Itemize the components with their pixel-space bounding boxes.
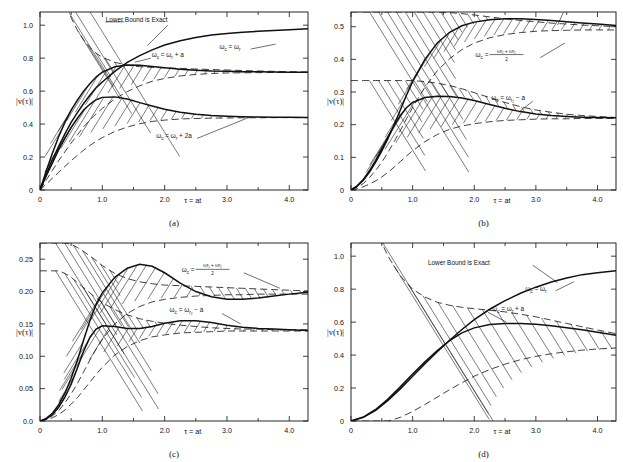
x-tick-label: 1.0 (408, 426, 418, 435)
x-tick-label: 0 (38, 426, 42, 435)
panel-letter: (a) (169, 218, 179, 228)
y-tick-label: 0.4 (23, 120, 33, 129)
annotation-leader (533, 265, 558, 282)
y-tick-label: 0.5 (334, 22, 344, 31)
x-tick-label: 4.0 (284, 195, 294, 204)
x-tick-label: 2.0 (160, 426, 170, 435)
y-tick-label: 1.0 (23, 21, 33, 30)
y-tick-label: 0 (340, 417, 344, 426)
x-axis-label: τ = at (184, 427, 201, 436)
y-axis-label: |v(τ)| (16, 96, 33, 106)
data-curve (40, 97, 308, 190)
panel-c: 01.02.03.04.00.00.050.100.150.200.25|v(τ… (0, 231, 322, 462)
y-axis-label: |v(τ)| (327, 327, 344, 337)
hatch-band (56, 243, 302, 409)
annotation-omega-c-omega-r: ωc = ωr (525, 285, 547, 294)
y-tick-label: 0.2 (334, 120, 344, 129)
y-tick-label: 0 (29, 186, 33, 195)
annotation-omega-c-omega-r-plus-a: ωc = ωr + a (492, 305, 524, 314)
panel-letter: (c) (169, 449, 179, 459)
data-curve (351, 96, 616, 190)
y-tick-label: 0.4 (334, 55, 344, 64)
curves-group (40, 0, 308, 190)
panel-letter: (b) (478, 218, 489, 228)
x-axis-label: τ = at (493, 427, 510, 436)
panel-letter: (d) (478, 449, 489, 459)
annotation-omega-c-omega-r: ωc = ωr (220, 43, 242, 52)
bound-curve (40, 0, 308, 72)
plot-frame (40, 12, 308, 190)
annotation-lower-bound-exact: Lower Bound is Exact (428, 259, 490, 266)
fraction-denominator: 2 (211, 271, 214, 276)
bound-curve (40, 243, 308, 291)
y-axis-label: |v(τ)| (16, 327, 33, 337)
annotation-leader (147, 25, 168, 46)
data-curve (40, 321, 308, 421)
panel-a: 01.02.03.04.000.20.40.60.81.0|v(τ)|τ = a… (0, 0, 322, 232)
y-tick-label: 0.0 (23, 417, 33, 426)
data-curve (40, 65, 308, 190)
x-tick-label: 0 (349, 426, 353, 435)
x-tick-label: 4.0 (284, 426, 294, 435)
hatch-band (369, 12, 503, 172)
bound-curve (351, 118, 616, 190)
panel-b: 01.02.03.04.000.10.20.30.40.5|v(τ)|τ = a… (311, 0, 623, 232)
annotation-omega-c-omega-r2-minus-a: ωc = ωr₂ − a (491, 94, 525, 103)
plot-frame (351, 12, 616, 190)
x-tick-label: 3.0 (222, 426, 232, 435)
y-tick-label: 0 (340, 186, 344, 195)
x-tick-label: 3.0 (222, 195, 232, 204)
x-tick-label: 4.0 (593, 426, 603, 435)
annotation-leader (222, 314, 241, 324)
annotation-omega-c-mean: ωc = (182, 266, 195, 275)
hatch-band (57, 321, 300, 410)
y-tick-label: 0.8 (334, 285, 344, 294)
x-tick-label: 0 (349, 195, 353, 204)
annotation-omega-c-omega-r-plus-2a: ωc = ωr + 2a (156, 132, 192, 141)
annotation-leader (519, 101, 533, 112)
x-axis-label: τ = at (493, 196, 510, 205)
fraction-numerator: ωr₁ + ωr₂ (497, 49, 516, 54)
x-tick-label: 1.0 (408, 195, 418, 204)
x-tick-label: 4.0 (593, 195, 603, 204)
y-tick-label: 0.10 (19, 352, 33, 361)
x-tick-label: 3.0 (531, 195, 541, 204)
y-tick-label: 0.6 (23, 87, 33, 96)
annotation-omega-c-mean: ωc = (476, 51, 489, 60)
annotation-leader (197, 117, 249, 138)
y-tick-label: 0.8 (23, 54, 33, 63)
panel-d: 01.02.03.04.000.20.40.60.81.0|v(τ)|τ = a… (311, 231, 623, 462)
annotation-leader (135, 58, 151, 62)
curves-group (351, 12, 616, 190)
data-curve (351, 19, 616, 190)
x-tick-label: 1.0 (97, 195, 107, 204)
y-tick-label: 0.6 (334, 318, 344, 327)
y-tick-label: 1.0 (334, 252, 344, 261)
x-tick-label: 2.0 (160, 195, 170, 204)
curves-group (40, 243, 308, 421)
annotation-leader (540, 43, 565, 58)
y-tick-label: 0.25 (19, 255, 33, 264)
bound-curve (351, 231, 616, 334)
y-tick-label: 0.20 (19, 287, 33, 296)
annotation-leader (556, 282, 574, 291)
x-tick-label: 0 (38, 195, 42, 204)
annotation-leader (251, 44, 276, 49)
bound-curve (40, 331, 308, 421)
y-tick-label: 0.4 (334, 351, 344, 360)
x-axis-label: τ = at (184, 196, 201, 205)
fraction-numerator: ωr₁ + ωr₂ (203, 263, 222, 268)
annotation-leader (557, 12, 563, 25)
x-tick-label: 2.0 (469, 426, 479, 435)
y-tick-label: 0.2 (334, 384, 344, 393)
data-curve (40, 264, 308, 421)
data-curve (351, 271, 616, 421)
figure-container: 01.02.03.04.000.20.40.60.81.0|v(τ)|τ = a… (0, 0, 623, 462)
y-tick-label: 0.1 (334, 153, 344, 162)
y-tick-label: 0.2 (23, 153, 33, 162)
plot-frame (351, 243, 616, 421)
x-tick-label: 1.0 (97, 426, 107, 435)
y-tick-label: 0.05 (19, 384, 33, 393)
x-tick-label: 3.0 (531, 426, 541, 435)
y-axis-label: |v(τ)| (327, 96, 344, 106)
